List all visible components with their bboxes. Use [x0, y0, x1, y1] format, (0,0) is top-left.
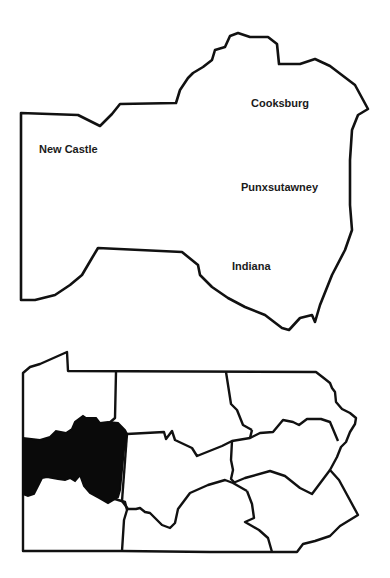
label-indiana: Indiana [232, 261, 271, 272]
county-border [245, 491, 272, 552]
label-cooksburg: Cooksburg [251, 98, 309, 109]
county-border [231, 441, 235, 483]
county-border [127, 419, 338, 456]
label-punxsutawney: Punxsutawney [241, 182, 318, 193]
county-border [122, 480, 247, 528]
county-border [250, 430, 252, 438]
county-border [226, 372, 252, 430]
county-border [233, 470, 330, 494]
county-border [108, 497, 127, 551]
label-new-castle: New Castle [39, 144, 98, 155]
highlighted-region [23, 416, 127, 503]
detail-map [0, 0, 390, 340]
state-outline [23, 352, 358, 552]
county-border [108, 372, 116, 424]
county-border [122, 434, 127, 501]
